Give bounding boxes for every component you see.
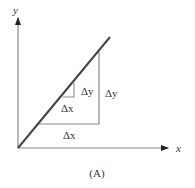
slope-diagram: y x Δy Δx Δy Δx (A) [0,0,195,188]
large-dx-label: Δx [63,129,76,141]
small-dx-label: Δx [61,102,74,114]
small-slope-triangle [63,83,74,97]
large-dy-label: Δy [105,87,118,99]
figure-caption: (A) [89,167,105,180]
small-dy-label: Δy [81,85,94,97]
y-axis-label: y [12,4,18,16]
x-axis-label: x [175,142,181,154]
